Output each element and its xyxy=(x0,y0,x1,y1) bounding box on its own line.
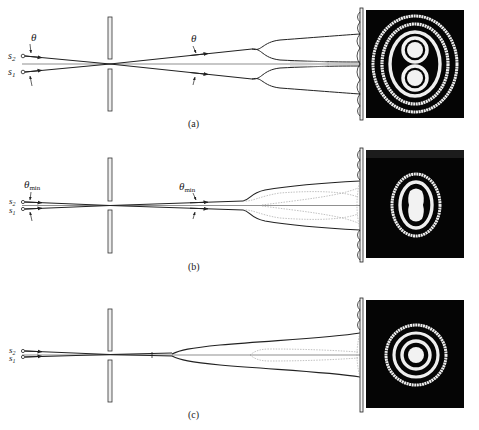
aperture-lower xyxy=(108,360,112,402)
arrow-icon xyxy=(190,73,208,75)
ray-s2 xyxy=(25,202,243,210)
diffraction-envelope-upper xyxy=(172,333,360,354)
rayleigh-criterion-figure: s2 s1 θ θ xyxy=(0,0,479,430)
angle-pointer-icon xyxy=(193,77,195,85)
arrow-icon xyxy=(25,202,42,203)
arrow-icon xyxy=(25,56,42,58)
panel-a: s2 s1 θ θ xyxy=(8,8,464,130)
arrow-icon xyxy=(25,208,42,209)
dotted-envelope xyxy=(243,210,358,220)
diffraction-pattern-b xyxy=(366,150,464,258)
aperture-upper xyxy=(108,309,112,351)
diffraction-pattern-a xyxy=(366,10,464,118)
angle-theta-label-left: θ xyxy=(31,31,37,43)
dotted-envelope xyxy=(262,188,358,205)
diffraction-envelope-lower xyxy=(243,210,360,230)
angle-pointer-icon xyxy=(30,76,32,86)
panel-a-caption: (a) xyxy=(188,118,199,130)
diffraction-envelope-lower-inner xyxy=(252,66,360,79)
source-s2-label: s2 xyxy=(8,50,16,63)
screen xyxy=(360,148,363,262)
panel-c-caption: (c) xyxy=(188,409,199,421)
arrow-icon xyxy=(190,202,208,203)
ray-s2 xyxy=(25,56,252,79)
diffraction-pattern-c xyxy=(366,300,464,408)
arrow-icon xyxy=(190,54,208,56)
dotted-envelope xyxy=(250,349,358,355)
aperture-lower xyxy=(108,69,112,111)
angle-theta-label-right: θ xyxy=(191,32,197,44)
ray-s1 xyxy=(25,49,252,72)
arrow-icon xyxy=(25,351,42,352)
dotted-envelope xyxy=(243,192,358,202)
source-s1-icon xyxy=(21,207,24,210)
panel-b-caption: (b) xyxy=(188,261,200,273)
diffraction-envelope-upper-inner xyxy=(252,49,360,62)
arrow-icon xyxy=(25,356,42,357)
dotted-envelope xyxy=(250,355,358,361)
angle-theta-min-label-right: θmin xyxy=(179,180,196,194)
source-s2-icon xyxy=(21,54,25,58)
angle-pointer-icon xyxy=(193,46,196,53)
source-s2-icon xyxy=(21,200,24,203)
panel-c: s2 s1 (c) xyxy=(9,298,464,421)
source-s1-label: s1 xyxy=(8,66,15,79)
aperture-lower xyxy=(108,210,112,253)
arrow-icon xyxy=(25,70,42,72)
diffraction-envelope-lower xyxy=(172,356,360,377)
angle-pointer-icon xyxy=(193,212,195,219)
source-s2-icon xyxy=(21,349,24,352)
angle-pointer-icon xyxy=(30,192,31,200)
screen xyxy=(360,298,363,412)
angle-pointer-icon xyxy=(193,193,196,200)
dotted-envelope xyxy=(357,180,360,230)
aperture-upper xyxy=(108,158,112,201)
panel-b: s2 s1 θmin θmin (b) xyxy=(9,148,464,273)
aperture-upper xyxy=(108,17,112,59)
diffraction-envelope-lower xyxy=(252,78,360,94)
dotted-envelope xyxy=(262,206,358,223)
diffraction-envelope-upper xyxy=(252,34,360,50)
angle-pointer-icon xyxy=(30,44,31,53)
source-s1-icon xyxy=(21,355,24,358)
diffraction-envelope-upper xyxy=(243,181,360,201)
angle-theta-min-label-left: θmin xyxy=(24,178,41,192)
arrow-icon xyxy=(190,208,208,209)
source-s1-icon xyxy=(21,70,25,74)
ray-s1 xyxy=(25,201,243,209)
angle-pointer-icon xyxy=(30,212,32,221)
